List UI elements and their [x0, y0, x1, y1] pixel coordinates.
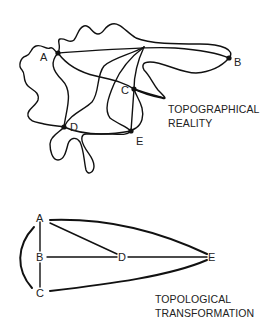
route-a-d	[53, 53, 68, 127]
route-c-bend	[134, 89, 164, 98]
edge-c-e	[50, 260, 207, 291]
topographical-caption: TOPOGRAPHICAL REALITY	[168, 102, 260, 130]
topographical-map: A B C D E	[20, 24, 241, 173]
edge-a-e	[50, 220, 207, 254]
caption-line: REALITY	[168, 116, 260, 130]
node-e-dot	[128, 128, 133, 133]
edge-a-d	[50, 223, 117, 254]
caption-line: TOPOLOGICAL	[155, 292, 254, 306]
graph-node-a-label: A	[36, 212, 44, 224]
land-outline	[20, 24, 231, 173]
graph-node-c-label: C	[36, 287, 44, 299]
topology-figure: A B C D E A B C D E	[0, 0, 278, 335]
node-b-label: B	[234, 56, 241, 68]
topological-caption: TOPOLOGICAL TRANSFORMATION	[155, 292, 254, 320]
topological-graph: A B C D E	[20, 212, 215, 299]
graph-node-b-label: B	[36, 251, 43, 263]
node-e-label: E	[136, 135, 143, 147]
caption-line: TRANSFORMATION	[155, 306, 254, 320]
node-c-label: C	[121, 84, 129, 96]
caption-line: TOPOGRAPHICAL	[168, 102, 260, 116]
graph-node-e-label: E	[208, 251, 215, 263]
node-d-dot	[61, 124, 66, 129]
node-a-label: A	[40, 51, 48, 63]
node-c-dot	[131, 86, 136, 91]
node-d-label: D	[70, 121, 78, 133]
node-b-dot	[226, 55, 231, 60]
node-a-dot	[55, 50, 60, 55]
edge-a-c-arc	[20, 227, 34, 288]
graph-node-d-label: D	[118, 251, 126, 263]
